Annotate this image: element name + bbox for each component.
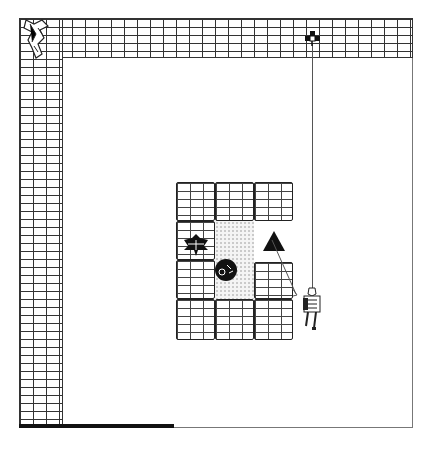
wall-block [215, 299, 254, 340]
climber-on-rope-icon[interactable] [300, 286, 324, 332]
left-wall [19, 18, 63, 426]
wall-block [176, 299, 215, 340]
top-wall [19, 18, 413, 58]
wall-block [176, 182, 215, 221]
rope [312, 44, 313, 294]
wall-block [215, 182, 254, 221]
bat-icon[interactable] [182, 232, 210, 258]
anchor-icon[interactable] [304, 30, 322, 48]
wall-block [176, 260, 215, 299]
wall-block [254, 182, 293, 221]
aim-line [270, 238, 300, 298]
wall-block [254, 299, 293, 340]
progress-bar [19, 424, 174, 428]
boulder-icon[interactable] [213, 257, 239, 283]
crumbling-figure-icon[interactable] [22, 18, 52, 60]
